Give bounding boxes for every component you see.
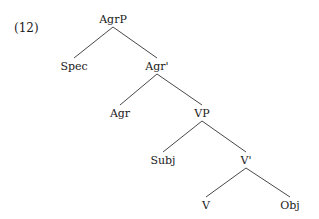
node-v: V	[202, 200, 210, 211]
edge-v-bar-v	[206, 168, 246, 197]
node-vp: VP	[194, 108, 209, 119]
node-agr: Agr	[110, 108, 130, 119]
node-v-bar: V'	[241, 155, 252, 166]
node-spec: Spec	[60, 61, 87, 72]
example-number: (12)	[14, 22, 39, 34]
edge-v-bar-obj	[246, 168, 290, 197]
tree-edges	[0, 0, 319, 219]
node-agrp: AgrP	[99, 14, 127, 25]
edge-agrp-agr-bar	[113, 27, 157, 58]
edge-agr-bar-agr	[120, 74, 157, 105]
edge-vp-subj	[163, 121, 202, 152]
syntax-tree-diagram: (12) AgrP Spec Agr' Agr VP Subj V' V Obj	[0, 0, 319, 219]
node-obj: Obj	[280, 200, 299, 211]
node-agr-bar: Agr'	[145, 61, 168, 72]
node-subj: Subj	[150, 155, 175, 166]
edge-vp-v-bar	[202, 121, 246, 152]
edge-agrp-spec	[74, 27, 113, 58]
edge-agr-bar-vp	[157, 74, 202, 105]
